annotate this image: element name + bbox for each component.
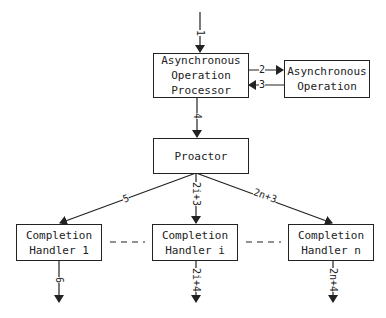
node-label: Processor (171, 83, 231, 98)
completion-handler-i-node: Completion Handler i (152, 224, 238, 261)
node-label: Completion (298, 228, 364, 243)
edge-label-2i-4: 2i+4 (191, 268, 201, 292)
proactor-node: Proactor (153, 138, 249, 174)
node-label: Asynchronous (287, 64, 366, 79)
node-label: Completion (162, 228, 228, 243)
node-label: Handler i (165, 243, 225, 258)
node-label: Operation (171, 68, 231, 83)
edge-label-6: 6 (54, 277, 64, 283)
node-label: Completion (26, 228, 92, 243)
async-operation-node: Asynchronous Operation (284, 60, 370, 98)
completion-handler-n-node: Completion Handler n (288, 224, 374, 261)
edge-label-1: 1 (195, 30, 205, 36)
async-operation-processor-node: Asynchronous Operation Processor (153, 53, 249, 98)
node-label: Proactor (175, 149, 228, 164)
node-label: Handler 1 (29, 243, 89, 258)
completion-handler-1-node: Completion Handler 1 (16, 224, 102, 261)
node-label: Operation (297, 79, 357, 94)
edge-label-2: 2 (259, 65, 265, 75)
edge-label-3: 3 (259, 80, 265, 90)
edge-label-2i-3: 2i+3 (191, 182, 201, 206)
node-label: Asynchronous (161, 53, 240, 68)
node-label: Handler n (301, 243, 361, 258)
edge-label-2n-4: 2n+4 (328, 268, 338, 292)
edge-label-4: 4 (192, 113, 202, 119)
